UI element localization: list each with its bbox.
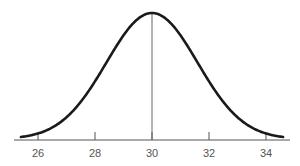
- x-tick-label: 32: [203, 147, 215, 159]
- x-axis-tick-labels: 2628303234: [32, 147, 272, 159]
- x-tick-label: 34: [260, 147, 272, 159]
- x-tick-label: 30: [146, 147, 158, 159]
- x-tick-label: 26: [32, 147, 44, 159]
- bell-curve-chart: 2628303234: [0, 0, 300, 166]
- x-tick-label: 28: [89, 147, 101, 159]
